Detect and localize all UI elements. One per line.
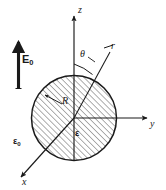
permittivity-label-epsilon-inside: ε [75, 129, 79, 138]
radial-label-r: r [111, 41, 115, 51]
axis-label-x: x [22, 177, 26, 187]
diagram-canvas [0, 0, 166, 190]
angle-arc-theta [74, 64, 93, 75]
physics-diagram-dielectric-sphere: z y x θ r R ε ε0 E0 [0, 0, 166, 190]
field-label-E-zero: E0 [22, 54, 34, 67]
sphere-radius-label-R: R [62, 96, 68, 106]
permittivity-label-epsilon-zero-outside: ε0 [13, 137, 21, 147]
sphere-hatch-fill [28, 72, 122, 166]
theta-leader-line [88, 57, 95, 62]
epsilon-subscript: 0 [17, 140, 20, 147]
field-subscript: 0 [29, 58, 33, 67]
axis-label-z: z [78, 5, 82, 15]
angle-label-theta: θ [80, 49, 85, 59]
axis-label-y: y [150, 119, 154, 129]
